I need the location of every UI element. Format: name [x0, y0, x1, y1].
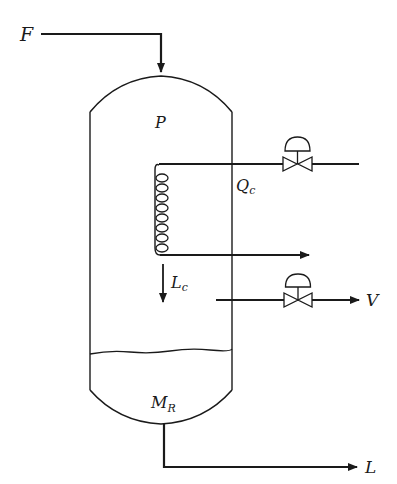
- coolant-control-valve[interactable]: [283, 137, 312, 171]
- liquid-level-line: [90, 349, 232, 354]
- liquid-outlet-stream: [164, 424, 357, 467]
- vapor-control-valve[interactable]: [284, 274, 312, 307]
- holdup-label: MR: [150, 393, 176, 415]
- feed-stream: [41, 34, 161, 72]
- process-diagram: F P MR Qc: [0, 0, 397, 484]
- coil-duty-label: Qc: [236, 176, 255, 197]
- pressure-label: P: [154, 113, 166, 132]
- feed-label: F: [19, 23, 34, 45]
- liquid-label: L: [364, 457, 376, 477]
- cooling-coil: [155, 164, 232, 255]
- condensate-label: Lc: [170, 273, 188, 294]
- vapor-label: V: [366, 290, 380, 310]
